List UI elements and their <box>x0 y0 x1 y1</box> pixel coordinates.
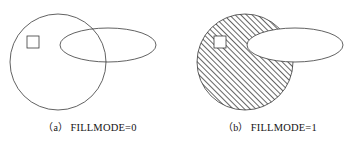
circle-shape-a <box>10 14 106 110</box>
panel-b-caption: （b）FILLMODE=1 <box>180 118 360 142</box>
square-shape-b <box>214 36 226 48</box>
panel-b-canvas <box>180 0 360 118</box>
circle-shape-b <box>197 14 293 110</box>
ellipse-shape-b <box>247 28 343 62</box>
panel-a-caption-tag: （a） <box>43 122 68 133</box>
panel-a-canvas <box>0 0 180 118</box>
figure-panel-b: （b）FILLMODE=1 <box>180 0 360 142</box>
panel-b-caption-text: FILLMODE=1 <box>251 122 317 133</box>
panel-b-caption-tag: （b） <box>223 122 249 133</box>
ellipse-shape-a <box>60 28 156 62</box>
square-shape-a <box>27 36 39 48</box>
panel-a-caption-text: FILLMODE=0 <box>70 122 136 133</box>
figure-root: （a）FILLMODE=0 （b）FILLMODE=1 <box>0 0 360 142</box>
figure-panel-a: （a）FILLMODE=0 <box>0 0 180 142</box>
panel-a-caption: （a）FILLMODE=0 <box>0 118 180 142</box>
